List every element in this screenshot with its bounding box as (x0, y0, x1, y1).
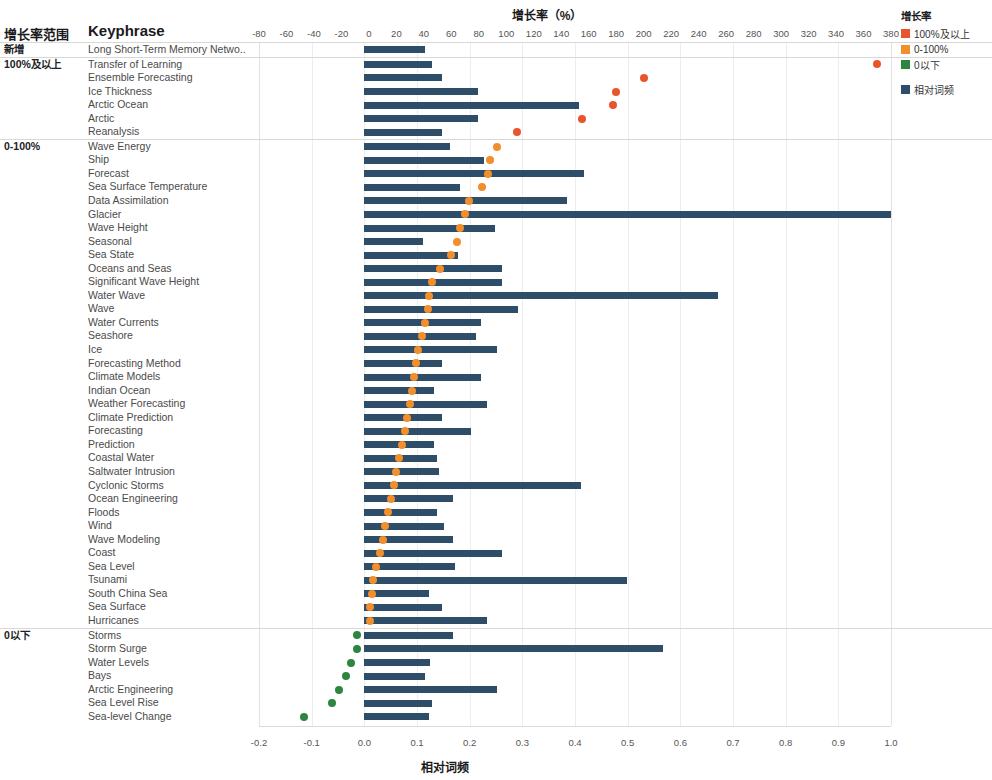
growth-rate-dot[interactable] (379, 536, 387, 544)
table-row[interactable]: Seasonal (0, 235, 992, 249)
frequency-bar[interactable] (364, 659, 430, 666)
frequency-bar[interactable] (364, 577, 626, 584)
frequency-bar[interactable] (364, 115, 478, 122)
growth-rate-dot[interactable] (366, 603, 374, 611)
growth-rate-dot[interactable] (300, 713, 308, 721)
frequency-bar[interactable] (364, 143, 449, 150)
frequency-bar[interactable] (364, 129, 442, 136)
growth-rate-dot[interactable] (461, 210, 469, 218)
table-row[interactable]: Coast (0, 546, 992, 560)
frequency-bar[interactable] (364, 468, 439, 475)
growth-rate-dot[interactable] (372, 563, 380, 571)
frequency-bar[interactable] (364, 401, 486, 408)
frequency-bar[interactable] (364, 225, 495, 232)
table-row[interactable]: Seashore (0, 329, 992, 343)
table-row[interactable]: Hurricanes (0, 614, 992, 628)
frequency-bar[interactable] (364, 265, 502, 272)
growth-rate-dot[interactable] (384, 508, 392, 516)
growth-rate-dot[interactable] (418, 332, 426, 340)
growth-rate-dot[interactable] (484, 170, 492, 178)
frequency-bar[interactable] (364, 61, 431, 68)
growth-rate-dot[interactable] (395, 454, 403, 462)
table-row[interactable]: Arctic Ocean (0, 98, 992, 112)
table-row[interactable]: Ocean Engineering (0, 492, 992, 506)
table-row[interactable]: Wind (0, 519, 992, 533)
growth-rate-dot[interactable] (612, 88, 620, 96)
growth-rate-dot[interactable] (376, 549, 384, 557)
table-row[interactable]: Glacier (0, 208, 992, 222)
table-row[interactable]: Sea-level Change (0, 710, 992, 724)
growth-rate-dot[interactable] (366, 617, 374, 625)
growth-rate-dot[interactable] (408, 387, 416, 395)
frequency-bar[interactable] (364, 700, 431, 707)
growth-rate-dot[interactable] (609, 101, 617, 109)
frequency-bar[interactable] (364, 495, 452, 502)
table-row[interactable]: Data Assimilation (0, 194, 992, 208)
legend-item[interactable]: 0-100% (901, 44, 991, 55)
growth-rate-dot[interactable] (390, 481, 398, 489)
growth-rate-dot[interactable] (486, 156, 494, 164)
table-row[interactable]: Coastal Water (0, 451, 992, 465)
frequency-bar[interactable] (364, 238, 423, 245)
growth-rate-dot[interactable] (640, 74, 648, 82)
table-row[interactable]: 100%及以上Transfer of Learning (0, 57, 992, 72)
table-row[interactable]: Ice (0, 343, 992, 357)
frequency-bar[interactable] (364, 211, 891, 218)
table-row[interactable]: Prediction (0, 438, 992, 452)
growth-rate-dot[interactable] (381, 522, 389, 530)
frequency-bar[interactable] (364, 604, 442, 611)
growth-rate-dot[interactable] (493, 143, 501, 151)
frequency-bar[interactable] (364, 509, 437, 516)
frequency-bar[interactable] (364, 157, 484, 164)
growth-rate-dot[interactable] (425, 292, 433, 300)
growth-rate-dot[interactable] (353, 645, 361, 653)
growth-rate-dot[interactable] (328, 699, 336, 707)
growth-rate-dot[interactable] (335, 686, 343, 694)
growth-rate-dot[interactable] (342, 672, 350, 680)
table-row[interactable]: Water Levels (0, 656, 992, 670)
table-row[interactable]: Weather Forecasting (0, 397, 992, 411)
frequency-bar[interactable] (364, 346, 497, 353)
table-row[interactable]: Saltwater Intrusion (0, 465, 992, 479)
frequency-bar[interactable] (364, 252, 458, 259)
table-row[interactable]: Forecasting Method (0, 357, 992, 371)
growth-rate-dot[interactable] (465, 197, 473, 205)
table-row[interactable]: Sea Level (0, 560, 992, 574)
table-row[interactable]: Ship (0, 153, 992, 167)
frequency-bar[interactable] (364, 645, 663, 652)
growth-rate-dot[interactable] (401, 427, 409, 435)
frequency-bar[interactable] (364, 46, 425, 53)
table-row[interactable]: Ice Thickness (0, 85, 992, 99)
growth-rate-dot[interactable] (424, 305, 432, 313)
table-row[interactable]: Climate Models (0, 370, 992, 384)
growth-rate-dot[interactable] (412, 359, 420, 367)
table-row[interactable]: Sea Surface (0, 600, 992, 614)
table-row[interactable]: 0以下Storms (0, 628, 992, 643)
frequency-bar[interactable] (364, 374, 481, 381)
table-row[interactable]: Sea Level Rise (0, 696, 992, 710)
frequency-bar[interactable] (364, 102, 579, 109)
table-row[interactable]: Cyclonic Storms (0, 479, 992, 493)
growth-rate-dot[interactable] (578, 115, 586, 123)
growth-rate-dot[interactable] (447, 251, 455, 259)
growth-rate-dot[interactable] (456, 224, 464, 232)
growth-rate-dot[interactable] (398, 441, 406, 449)
growth-rate-dot[interactable] (368, 590, 376, 598)
table-row[interactable]: 新增Long Short-Term Memory Netwo.. (0, 42, 992, 57)
growth-rate-dot[interactable] (387, 495, 395, 503)
table-row[interactable]: Wave Height (0, 221, 992, 235)
growth-rate-dot[interactable] (436, 265, 444, 273)
frequency-bar[interactable] (364, 306, 518, 313)
frequency-bar[interactable] (364, 170, 584, 177)
frequency-bar[interactable] (364, 360, 442, 367)
growth-rate-dot[interactable] (410, 373, 418, 381)
growth-rate-dot[interactable] (414, 346, 422, 354)
frequency-bar[interactable] (364, 536, 452, 543)
growth-rate-dot[interactable] (478, 183, 486, 191)
frequency-bar[interactable] (364, 550, 502, 557)
frequency-bar[interactable] (364, 632, 452, 639)
frequency-bar[interactable] (364, 184, 460, 191)
legend-item[interactable]: 100%及以上 (901, 26, 991, 41)
table-row[interactable]: Water Wave (0, 289, 992, 303)
frequency-bar[interactable] (364, 713, 428, 720)
